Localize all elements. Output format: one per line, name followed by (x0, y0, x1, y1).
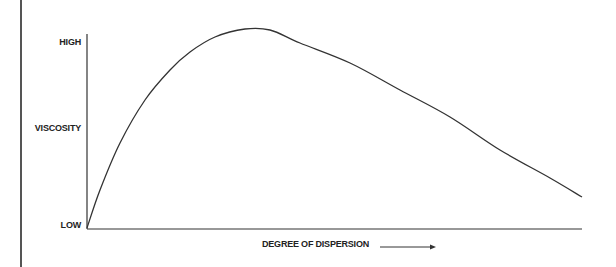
chart-canvas (0, 0, 616, 267)
y-tick-high: HIGH (59, 37, 81, 47)
y-axis-label: VISCOSITY (35, 123, 81, 133)
y-tick-low: LOW (61, 220, 81, 230)
viscosity-curve (87, 28, 582, 228)
x-arrow-head-icon (430, 245, 436, 250)
x-axis-label: DEGREE OF DISPERSION (262, 239, 369, 249)
